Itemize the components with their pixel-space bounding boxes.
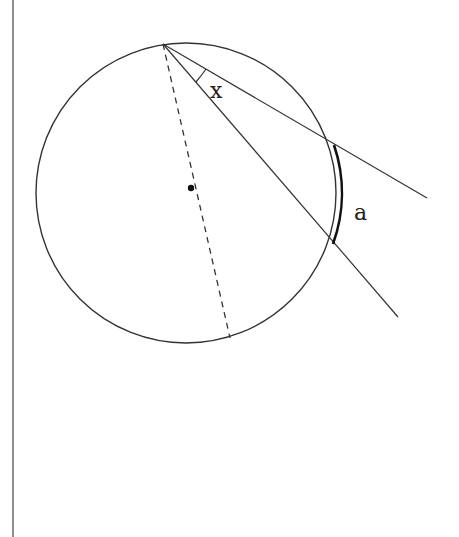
angle-label: x <box>210 78 223 103</box>
center-point <box>188 185 194 191</box>
ray-lower <box>163 44 398 317</box>
arc-label: a <box>354 200 367 225</box>
angle-marker <box>196 69 206 82</box>
intercepted-arc <box>333 145 342 244</box>
geometry-diagram: x a <box>0 0 459 537</box>
ray-upper <box>163 44 427 198</box>
